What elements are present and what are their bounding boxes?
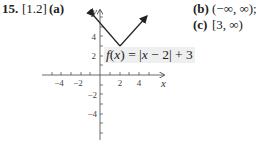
- x-axis-label: x: [160, 77, 166, 89]
- y-axis-label: y: [91, 5, 97, 17]
- function-right-branch: [120, 16, 147, 46]
- svg-text:4: 4: [92, 32, 97, 42]
- svg-text:−4: −4: [87, 109, 97, 119]
- svg-text:2: 2: [118, 78, 123, 88]
- function-graph: −4−2 24 4 2 −2 −4 x y: [0, 0, 266, 144]
- svg-text:−2: −2: [87, 90, 97, 100]
- function-label: f(x) = |x − 2| + 3: [104, 47, 195, 63]
- svg-text:−2: −2: [73, 78, 83, 88]
- svg-text:2: 2: [92, 51, 97, 61]
- svg-text:−4: −4: [54, 78, 64, 88]
- function-left-branch: [94, 16, 120, 46]
- svg-text:4: 4: [137, 78, 142, 88]
